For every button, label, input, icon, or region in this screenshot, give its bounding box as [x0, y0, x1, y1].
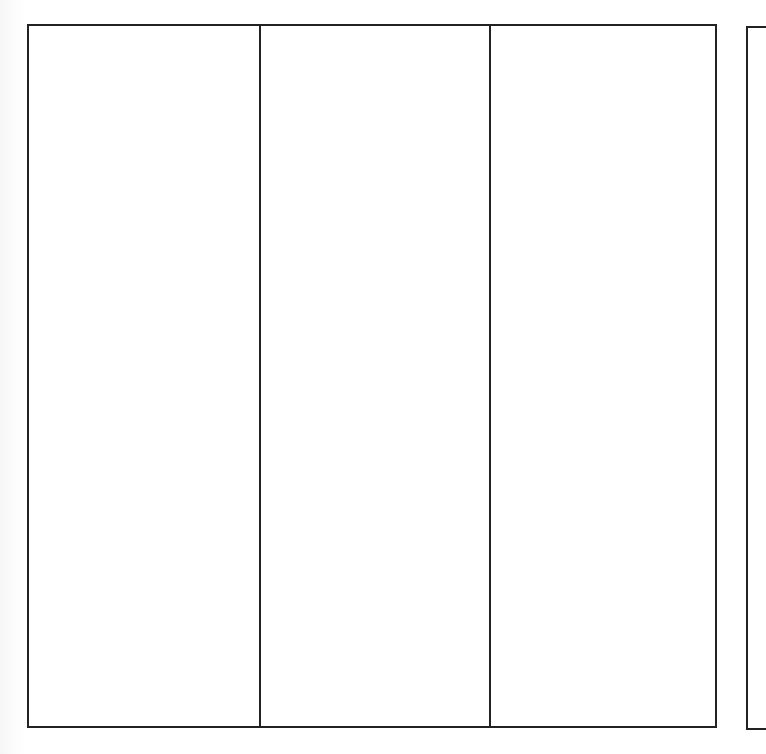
- column-2: [259, 26, 489, 726]
- column-1: [29, 26, 259, 726]
- adjacent-frame-edge: [746, 26, 766, 730]
- three-column-frame: [27, 24, 717, 728]
- column-3: [489, 26, 715, 726]
